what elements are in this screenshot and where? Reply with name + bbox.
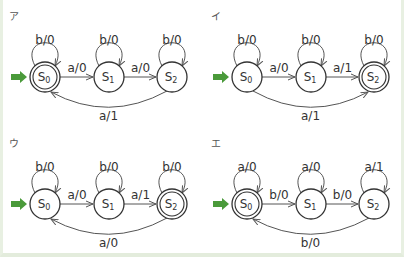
state-s0: S0 [232,62,262,92]
transition-label: b/0 [269,188,288,202]
loop-label: b/0 [35,160,54,174]
panel-a: アb/0b/0b/0a/0a/0a/1S0S1S2 [9,11,187,123]
transition-label: a/0 [67,61,86,75]
state-s0: S0 [30,189,60,219]
start-arrow-icon [213,198,229,210]
arc-label: b/0 [301,236,320,250]
arc-label: a/1 [301,109,320,123]
state-s1: S1 [94,62,124,92]
transition-label: a/0 [67,188,86,202]
loop-label: b/0 [35,33,54,47]
transition-label: a/0 [131,61,150,75]
loop-label: b/0 [99,33,118,47]
panel-label: エ [211,138,221,149]
return-arc-arrow [253,91,368,107]
loop-label: b/0 [301,33,320,47]
start-arrow-icon [11,71,27,83]
loop-label: a/0 [301,160,320,174]
loop-label: b/0 [162,160,181,174]
state-s1: S1 [94,189,124,219]
arc-label: a/1 [99,109,118,123]
state-s2: S2 [359,62,389,92]
panel-e: エa/0a/0a/1b/0b/0b/0S0S1S2 [211,138,389,250]
state-s2: S2 [157,62,187,92]
state-s1: S1 [296,62,326,92]
state-s2: S2 [359,189,389,219]
loop-label: a/0 [237,160,256,174]
loop-label: a/1 [364,160,383,174]
transition-label: b/0 [333,188,352,202]
state-diagrams: アb/0b/0b/0a/0a/0a/1S0S1S2イb/0b/0b/0a/0a/… [0,0,404,257]
loop-label: b/0 [99,160,118,174]
transition-label: a/1 [131,188,150,202]
panel-label: ウ [9,138,19,149]
panel-u: ウb/0b/0b/0a/0a/1a/0S0S1S2 [9,138,187,250]
start-arrow-icon [11,198,27,210]
start-arrow-icon [213,71,229,83]
transition-label: a/0 [269,61,288,75]
loop-label: b/0 [364,33,383,47]
return-arc-arrow [253,218,369,234]
state-s0: S0 [30,62,60,92]
loop-label: b/0 [162,33,181,47]
state-s0: S0 [232,189,262,219]
return-arc-arrow [51,218,167,234]
panel-label: イ [211,11,221,22]
state-s2: S2 [157,189,187,219]
loop-label: b/0 [237,33,256,47]
panel-label: ア [9,11,19,22]
arc-label: a/0 [99,236,118,250]
state-s1: S1 [296,189,326,219]
transition-label: a/1 [333,61,352,75]
return-arc-arrow [51,91,167,107]
panel-i: イb/0b/0b/0a/0a/1a/1S0S1S2 [211,11,389,123]
